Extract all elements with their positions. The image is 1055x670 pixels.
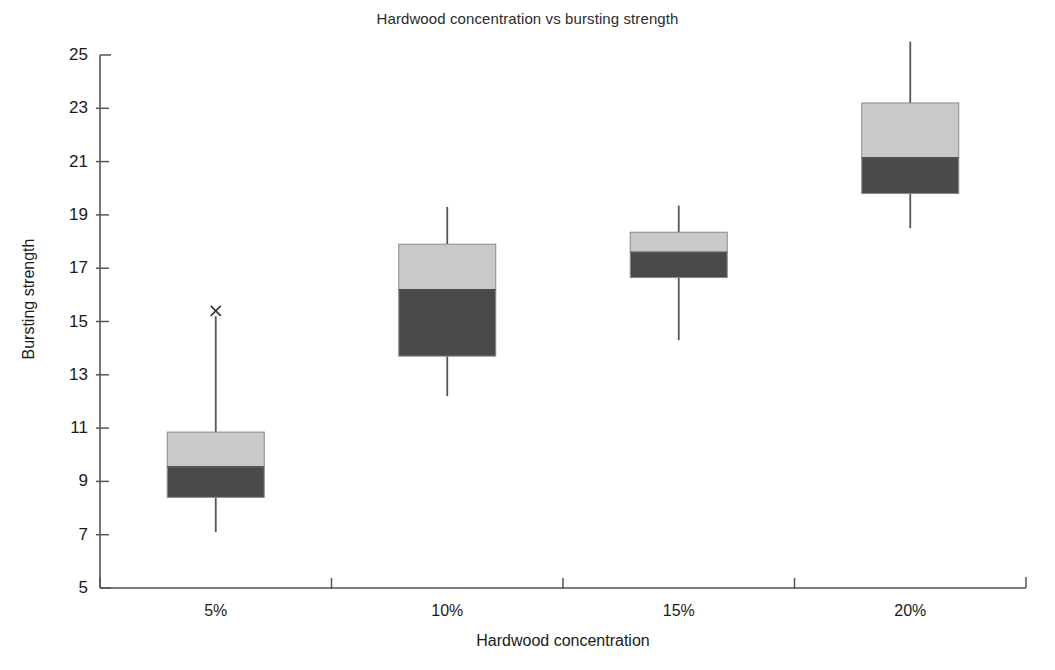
- y-axis-tick-label: 17: [40, 259, 88, 276]
- y-axis-tick-label: 13: [40, 366, 88, 383]
- x-axis-tick-label: 20%: [850, 603, 970, 619]
- y-axis-tick-label: 7: [40, 526, 88, 543]
- box-upper-quartile: [630, 232, 727, 252]
- y-axis-tick-label: 11: [40, 419, 88, 436]
- y-axis-tick-label: 25: [40, 46, 88, 63]
- box-upper-quartile: [862, 103, 959, 158]
- y-axis-tick-label: 9: [40, 472, 88, 489]
- box-lower-quartile: [399, 290, 496, 357]
- y-axis-tick-label: 5: [40, 579, 88, 596]
- box-lower-quartile: [862, 158, 959, 194]
- box-plot-chart: Hardwood concentration vs bursting stren…: [0, 0, 1055, 670]
- plot-area: [0, 0, 1055, 670]
- y-axis-tick-label: 15: [40, 313, 88, 330]
- box-lower-quartile: [630, 252, 727, 277]
- box-plot-group: [862, 42, 959, 229]
- box-lower-quartile: [167, 467, 264, 498]
- box-plot-group: [399, 207, 496, 396]
- y-axis-tick-label: 19: [40, 206, 88, 223]
- box-upper-quartile: [399, 244, 496, 289]
- box-plot-group: [167, 306, 264, 532]
- box-plot-group: [630, 206, 727, 341]
- y-axis-tick-label: 21: [40, 153, 88, 170]
- x-axis-tick-label: 10%: [387, 603, 507, 619]
- x-axis-tick-label: 15%: [619, 603, 739, 619]
- y-axis-tick-label: 23: [40, 99, 88, 116]
- box-upper-quartile: [167, 432, 264, 467]
- x-axis-tick-label: 5%: [156, 603, 276, 619]
